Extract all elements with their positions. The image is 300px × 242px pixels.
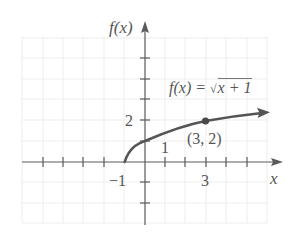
equation-radicand: x + 1	[218, 78, 252, 96]
x-tick-label-neg1: −1	[109, 173, 126, 189]
point-label: (3, 2)	[187, 131, 222, 147]
graph-canvas	[0, 0, 300, 242]
x-tick-label-3: 3	[201, 173, 209, 189]
y-tick-label-2: 2	[125, 113, 133, 129]
y-tick-label-1: 1	[161, 140, 169, 156]
x-axis-label: x	[270, 170, 278, 187]
y-axis-label: f(x)	[109, 19, 133, 36]
equation-lhs: f(x) =	[169, 79, 210, 96]
point-marker-3-2	[202, 117, 209, 124]
radical-icon: √	[210, 82, 217, 96]
function-equation: f(x) = √x + 1	[169, 80, 252, 96]
